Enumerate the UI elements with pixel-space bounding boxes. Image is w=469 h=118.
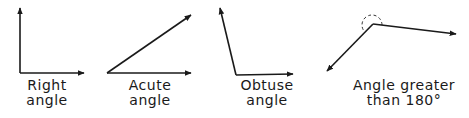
reflex-angle-lower-arm (327, 24, 373, 71)
reflex-angle-label-line2: than 180° (346, 93, 462, 108)
reflex-angle-label-line1: Angle greater (346, 78, 462, 93)
right-angle-label: Right angle (22, 78, 72, 108)
obtuse-angle-label-line1: Obtuse (236, 78, 298, 93)
acute-angle-upper-arm (107, 15, 191, 73)
acute-angle-label-line2: angle (122, 93, 178, 108)
reflex-angle-label: Angle greater than 180° (346, 78, 462, 108)
acute-angle-label-line1: Acute (122, 78, 178, 93)
reflex-angle-right-arm (373, 24, 456, 34)
reflex-angle-figure (327, 15, 456, 71)
obtuse-angle-label: Obtuse angle (236, 78, 298, 108)
obtuse-angle-label-line2: angle (236, 93, 298, 108)
obtuse-angle-figure (220, 8, 293, 75)
right-angle-label-line2: angle (22, 93, 72, 108)
right-angle-figure (20, 8, 84, 73)
acute-angle-figure (107, 15, 191, 73)
obtuse-angle-horizontal-arm (236, 74, 293, 75)
acute-angle-label: Acute angle (122, 78, 178, 108)
right-angle-label-line1: Right (22, 78, 72, 93)
reflex-angle-dashed-arc (362, 15, 382, 31)
obtuse-angle-upper-arm (220, 8, 236, 75)
